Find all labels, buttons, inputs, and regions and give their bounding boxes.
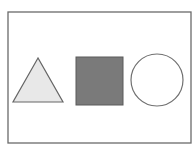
square-shape [76, 57, 123, 105]
triangle-shape [13, 58, 63, 102]
diagram-canvas [0, 0, 195, 144]
circle-shape [131, 54, 183, 106]
